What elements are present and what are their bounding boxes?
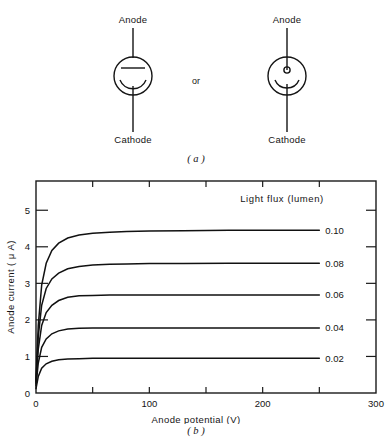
chart-curves [36,230,319,388]
x-tick-label: 100 [141,398,157,409]
y-tick-label: 3 [25,278,30,289]
y-tick-label: 5 [25,205,30,216]
x-tick-label: 300 [368,398,384,409]
y-tick-label: 0 [25,388,30,399]
curve-label-0-08: 0.08 [325,258,344,269]
curve-0-02 [36,358,319,388]
phototube-plate-anode-symbol [114,28,152,132]
curve-0-06 [36,295,319,384]
curve-label-0-06: 0.06 [325,289,344,300]
curve-0-08 [36,263,319,382]
curve-0-04 [36,328,319,386]
x-tick-label: 0 [33,398,38,409]
curve-label-0-02: 0.02 [325,353,344,364]
left-cathode-label: Cathode [114,134,151,145]
phototube-symbol-diagram [0,0,392,172]
right-anode-label: Anode [273,14,301,25]
phototube-point-anode-symbol [268,28,306,132]
x-tick-label: 200 [255,398,271,409]
y-tick-label: 4 [25,241,30,252]
or-connector-text: or [192,76,200,86]
legend-title: Light flux (lumen) [240,193,324,204]
right-cathode-label: Cathode [268,134,305,145]
y-tick-label: 2 [25,314,30,325]
chart-text: 0.100.080.060.040.020100200300012345Anod… [5,193,384,424]
figure-root: Anode Cathode Anode Cathode or ( a ) 0.1… [0,0,392,448]
x-axis-title: Anode potential (V) [152,414,241,424]
curve-label-0-10: 0.10 [325,225,344,236]
curve-label-0-04: 0.04 [325,322,344,333]
phototube-symbols-panel: Anode Cathode Anode Cathode or [0,0,392,172]
chart-svg: 0.100.080.060.040.020100200300012345Anod… [0,172,392,424]
characteristic-curves-chart: 0.100.080.060.040.020100200300012345Anod… [0,172,392,424]
y-tick-label: 1 [25,351,30,362]
left-anode-label: Anode [119,14,147,25]
figure-caption-a: ( a ) [0,153,392,164]
figure-caption-b: ( b ) [0,425,392,436]
y-axis-title: Anode current ( μ A) [5,240,16,334]
